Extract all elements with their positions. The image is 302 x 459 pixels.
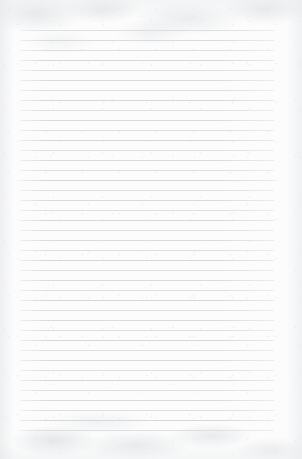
lined-paper-page — [0, 0, 302, 459]
writing-area[interactable] — [20, 30, 274, 430]
